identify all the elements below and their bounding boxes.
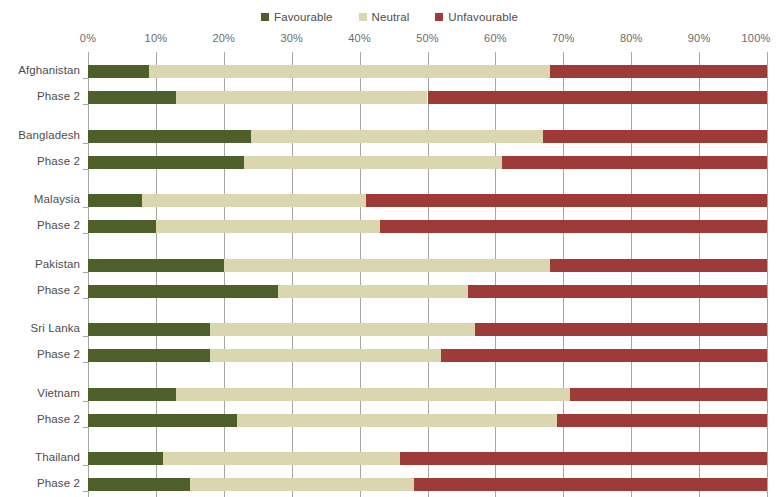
bar-row	[88, 388, 767, 401]
bar-segment-neutral[interactable]	[190, 478, 414, 491]
category-label: Vietnam	[37, 387, 80, 400]
bar-rows	[88, 52, 767, 497]
bar-segment-favourable[interactable]	[88, 323, 210, 336]
legend-swatch-neutral	[359, 13, 367, 21]
axis-tickmark	[83, 362, 88, 363]
bar-segment-neutral[interactable]	[210, 323, 475, 336]
axis-tickmark	[83, 491, 88, 492]
x-tick-label: 60%	[484, 32, 507, 44]
bar-segment-neutral[interactable]	[278, 285, 468, 298]
bar-segment-unfavourable[interactable]	[468, 285, 767, 298]
bar-row	[88, 323, 767, 336]
category-label: Phase 2	[37, 413, 80, 426]
legend-swatch-unfavourable	[435, 13, 443, 21]
bar-segment-favourable[interactable]	[88, 194, 142, 207]
x-tick-label: 80%	[620, 32, 643, 44]
x-axis-tick-labels: 0%10%20%30%40%50%60%70%80%90%100%	[0, 32, 779, 50]
bar-segment-neutral[interactable]	[237, 414, 556, 427]
category-label: Phase 2	[37, 284, 80, 297]
bar-segment-unfavourable[interactable]	[400, 452, 767, 465]
bar-segment-favourable[interactable]	[88, 414, 237, 427]
bar-segment-neutral[interactable]	[142, 194, 366, 207]
bar-row	[88, 156, 767, 169]
legend-label: Unfavourable	[448, 11, 518, 23]
axis-tickmark	[83, 298, 88, 299]
legend-label: Favourable	[274, 11, 333, 23]
bar-row	[88, 452, 767, 465]
bar-row	[88, 130, 767, 143]
bar-segment-favourable[interactable]	[88, 91, 176, 104]
legend-swatch-favourable	[261, 13, 269, 21]
axis-tickmark	[83, 427, 88, 428]
bar-row	[88, 285, 767, 298]
bar-segment-neutral[interactable]	[156, 220, 380, 233]
axis-tickmark	[83, 336, 88, 337]
axis-tickmark	[83, 104, 88, 105]
bar-segment-neutral[interactable]	[163, 452, 401, 465]
bar-segment-neutral[interactable]	[244, 156, 502, 169]
legend-item-neutral[interactable]: Neutral	[359, 11, 410, 23]
bar-segment-favourable[interactable]	[88, 156, 244, 169]
category-label: Thailand	[35, 451, 80, 464]
axis-tickmark	[83, 78, 88, 79]
legend-label: Neutral	[372, 11, 410, 23]
plot-area	[88, 52, 767, 497]
axis-tickmark	[83, 169, 88, 170]
bar-segment-neutral[interactable]	[224, 259, 550, 272]
bar-row	[88, 65, 767, 78]
category-label: Sri Lanka	[31, 322, 80, 335]
bar-segment-unfavourable[interactable]	[570, 388, 767, 401]
bar-segment-favourable[interactable]	[88, 452, 163, 465]
bar-segment-unfavourable[interactable]	[543, 130, 767, 143]
category-label: Malaysia	[34, 193, 80, 206]
category-label: Phase 2	[37, 348, 80, 361]
bar-segment-unfavourable[interactable]	[550, 65, 767, 78]
bar-segment-unfavourable[interactable]	[366, 194, 767, 207]
bar-segment-neutral[interactable]	[210, 349, 441, 362]
bar-segment-favourable[interactable]	[88, 478, 190, 491]
x-tick-label: 50%	[416, 32, 439, 44]
x-tick-label: 90%	[688, 32, 711, 44]
bar-segment-unfavourable[interactable]	[502, 156, 767, 169]
bar-segment-favourable[interactable]	[88, 220, 156, 233]
chart-legend: FavourableNeutralUnfavourable	[0, 8, 779, 26]
category-label: Phase 2	[37, 219, 80, 232]
bar-segment-neutral[interactable]	[176, 388, 570, 401]
bar-row	[88, 220, 767, 233]
bar-segment-unfavourable[interactable]	[550, 259, 767, 272]
bar-segment-unfavourable[interactable]	[380, 220, 767, 233]
bar-row	[88, 414, 767, 427]
x-tick-label: 70%	[552, 32, 575, 44]
bar-segment-unfavourable[interactable]	[414, 478, 767, 491]
category-label: Phase 2	[37, 90, 80, 103]
bar-segment-favourable[interactable]	[88, 65, 149, 78]
axis-tickmark	[83, 233, 88, 234]
category-label: Pakistan	[35, 258, 80, 271]
bar-segment-favourable[interactable]	[88, 349, 210, 362]
bar-segment-favourable[interactable]	[88, 285, 278, 298]
bar-row	[88, 349, 767, 362]
category-label: Bangladesh	[18, 129, 80, 142]
bar-segment-unfavourable[interactable]	[557, 414, 767, 427]
axis-tickmark	[83, 143, 88, 144]
bar-segment-favourable[interactable]	[88, 388, 176, 401]
bar-row	[88, 478, 767, 491]
axis-tickmark	[83, 272, 88, 273]
legend-item-favourable[interactable]: Favourable	[261, 11, 333, 23]
bar-segment-unfavourable[interactable]	[475, 323, 767, 336]
bar-segment-favourable[interactable]	[88, 259, 224, 272]
bar-segment-favourable[interactable]	[88, 130, 251, 143]
y-axis-category-labels: AfghanistanPhase 2BangladeshPhase 2Malay…	[0, 52, 84, 497]
bar-segment-unfavourable[interactable]	[428, 91, 768, 104]
bar-row	[88, 194, 767, 207]
x-tick-label: 30%	[280, 32, 303, 44]
bar-segment-neutral[interactable]	[176, 91, 427, 104]
legend-item-unfavourable[interactable]: Unfavourable	[435, 11, 518, 23]
axis-tickmark	[83, 207, 88, 208]
x-tick-label: 40%	[348, 32, 371, 44]
bar-segment-neutral[interactable]	[251, 130, 543, 143]
bar-segment-unfavourable[interactable]	[441, 349, 767, 362]
bar-segment-neutral[interactable]	[149, 65, 550, 78]
x-tick-label: 20%	[212, 32, 235, 44]
gridline	[767, 52, 768, 497]
